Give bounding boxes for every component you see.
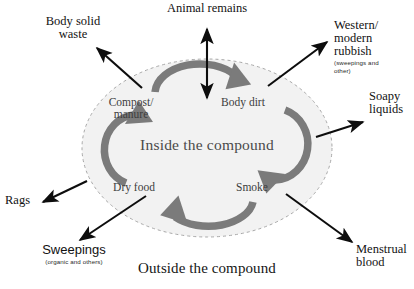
inner-node-compost-manure-line1: Compost/ (88, 96, 174, 108)
inner-node-dry-food: Dry food (100, 181, 168, 193)
external-node-western-modern-rubbish-line3: rubbish (334, 45, 414, 58)
inside-compound-title: Inside the compound (117, 137, 297, 153)
inner-node-smoke: Smoke (222, 181, 282, 193)
external-node-menstrual-blood: Menstrual blood (356, 243, 414, 269)
inner-node-body-dirt-line1: Body dirt (203, 96, 283, 108)
external-node-soapy-liquids: Soapy liquids (369, 90, 414, 116)
external-node-sweepings-sub: (organic and others) (8, 258, 140, 266)
external-node-animal-remains-line1: Animal remains (154, 2, 260, 15)
external-node-western-modern-rubbish-sub: (sweepings and other) (334, 59, 396, 74)
external-node-menstrual-blood-line2: blood (356, 256, 414, 269)
flow-arrow-body-solid-waste (97, 48, 142, 88)
inner-node-compost-manure-line2: manure (88, 108, 174, 120)
external-node-rags: Rags (5, 194, 49, 207)
flow-arrow-menstrual-blood (286, 194, 352, 242)
external-node-animal-remains: Animal remains (154, 2, 260, 15)
external-node-rags-line1: Rags (5, 194, 49, 207)
external-node-sweepings: Sweepings (organic and others) (8, 243, 140, 265)
flow-arrow-rags (43, 181, 87, 202)
inner-node-dry-food-line1: Dry food (100, 181, 168, 193)
external-node-sweepings-line1: Sweepings (8, 243, 140, 257)
external-node-body-solid-waste: Body solid waste (27, 15, 119, 41)
inner-node-body-dirt: Body dirt (203, 96, 283, 108)
external-node-western-modern-rubbish: Western/ modern rubbish (sweepings and o… (334, 19, 414, 75)
flow-arrow-western-modern-rubbish (268, 42, 327, 86)
inner-node-smoke-line1: Smoke (222, 181, 282, 193)
diagram-canvas: Compost/ manure Body dirt Smoke Dry food… (0, 0, 414, 289)
external-node-soapy-liquids-line2: liquids (369, 103, 414, 116)
inner-node-compost-manure: Compost/ manure (88, 96, 174, 120)
external-node-body-solid-waste-line2: waste (27, 28, 119, 41)
